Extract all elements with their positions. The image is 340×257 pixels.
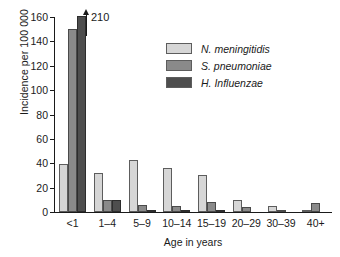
bar (311, 203, 320, 212)
y-tick-label: 140 (30, 35, 48, 47)
bar (77, 16, 86, 212)
x-axis-line (54, 212, 332, 213)
y-tick-label: 40 (36, 157, 48, 169)
legend-item: H. Influenzae (166, 76, 272, 89)
bar (94, 173, 103, 212)
legend-label: S. pneumoniae (201, 60, 272, 72)
bar (129, 160, 138, 212)
bar (302, 210, 311, 212)
chart-figure: Incidence per 100 000 020406080100120140… (0, 0, 340, 257)
bar (138, 205, 147, 212)
bar (112, 200, 121, 212)
bar-group (129, 17, 156, 212)
x-tick-label: 10–14 (162, 217, 191, 229)
x-tick-label: 5–9 (133, 217, 151, 229)
y-tick-mark (50, 139, 54, 140)
y-axis-line (54, 17, 55, 213)
y-tick-label: 100 (30, 84, 48, 96)
bar (207, 202, 216, 212)
y-tick-label: 120 (30, 60, 48, 72)
x-tick-label: <1 (67, 217, 79, 229)
y-tick-mark (50, 188, 54, 189)
bar (68, 29, 77, 212)
y-tick-label: 0 (42, 206, 48, 218)
y-tick-mark (50, 163, 54, 164)
bar (103, 200, 112, 212)
legend-label: N. meningitidis (201, 43, 270, 55)
legend-swatch (166, 60, 192, 71)
y-tick-mark (50, 41, 54, 42)
y-tick-mark (50, 90, 54, 91)
y-tick-label: 20 (36, 182, 48, 194)
y-tick-mark (50, 66, 54, 67)
bar (163, 168, 172, 212)
y-tick-mark (50, 212, 54, 213)
y-tick-label: 80 (36, 109, 48, 121)
bar (147, 210, 156, 212)
y-axis-title: Incidence per 100 000 (18, 0, 30, 162)
legend-label: H. Influenzae (201, 77, 263, 89)
y-tick-mark (50, 115, 54, 116)
x-tick-label: 20–29 (232, 217, 261, 229)
legend-item: S. pneumoniae (166, 59, 272, 72)
bar (216, 210, 225, 212)
legend-swatch (166, 77, 192, 88)
bar-group (94, 17, 121, 212)
bar (198, 175, 207, 212)
y-tick-label: 160 (30, 11, 48, 23)
bar-group (59, 17, 86, 212)
y-tick-label: 60 (36, 133, 48, 145)
legend-item: N. meningitidis (166, 42, 272, 55)
x-tick-label: 30–39 (266, 217, 295, 229)
bar (242, 207, 251, 212)
bar (181, 210, 190, 212)
bar (59, 164, 68, 212)
bar (277, 210, 286, 212)
bar (268, 206, 277, 212)
bar (233, 200, 242, 212)
annotation-value: 210 (91, 11, 109, 23)
chart-legend: N. meningitidisS. pneumoniaeH. Influenza… (166, 42, 272, 93)
x-tick-label: 1–4 (98, 217, 116, 229)
arrow-stem (86, 14, 87, 36)
x-axis-title: Age in years (54, 236, 332, 248)
bar-group (302, 17, 329, 212)
x-tick-label: 15–19 (197, 217, 226, 229)
clipped-bar-annotation: 210 (82, 8, 142, 36)
legend-swatch (166, 43, 192, 54)
x-tick-label: 40+ (307, 217, 325, 229)
y-tick-mark (50, 17, 54, 18)
bar (172, 206, 181, 212)
